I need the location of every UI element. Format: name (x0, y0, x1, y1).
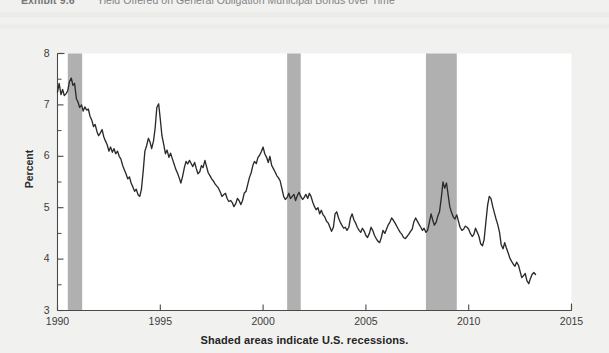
x-tick-label: 2000 (241, 315, 285, 327)
recession-note: Shaded areas indicate U.S. recessions. (0, 334, 609, 346)
x-tick-label: 2010 (447, 315, 491, 327)
x-tick-label: 1995 (138, 315, 182, 327)
y-axis-title: Percent (23, 132, 35, 206)
y-tick-label: 6 (36, 149, 50, 161)
recession-band-2 (426, 54, 457, 311)
x-tick-label: 2015 (550, 315, 594, 327)
y-tick-label: 8 (36, 47, 50, 59)
x-tick-label: 2005 (344, 315, 388, 327)
y-tick-label: 5 (36, 201, 50, 213)
x-tick-label: 1990 (36, 315, 80, 327)
y-tick-label: 7 (36, 98, 50, 110)
recession-band-1 (287, 54, 301, 311)
chart-figure: Percent 345678 199019952000200520102015 … (0, 0, 609, 353)
y-tick-label: 4 (36, 252, 50, 264)
plot-background (58, 54, 572, 311)
chart-plot-area (0, 0, 609, 353)
